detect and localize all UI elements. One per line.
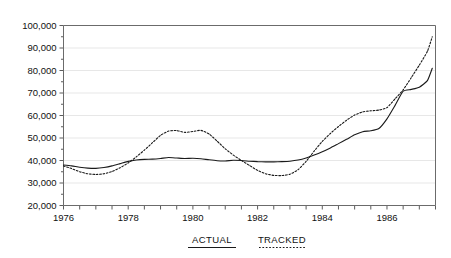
y-axis-tick-label: 50,000	[27, 132, 56, 143]
x-axis-tick-label: 1986	[376, 212, 397, 223]
x-axis-tick-label: 1978	[118, 212, 139, 223]
y-axis-tick-label: 80,000	[27, 65, 56, 76]
chart-container: 20,00030,00040,00050,00060,00070,00080,0…	[0, 0, 451, 258]
x-axis-tick-labels: 197619781980198219841986	[53, 212, 398, 223]
series-line-tracked	[64, 37, 433, 176]
legend-label-tracked: TRACKED	[258, 234, 306, 245]
y-axis-tick-label: 60,000	[27, 110, 56, 121]
chart-legend: ACTUAL TRACKED	[188, 234, 306, 248]
y-axis-tick-label: 90,000	[27, 42, 56, 53]
x-axis-tick-label: 1984	[312, 212, 333, 223]
x-tick-marks-group	[64, 206, 436, 210]
y-axis-tick-label: 70,000	[27, 87, 56, 98]
line-chart: 20,00030,00040,00050,00060,00070,00080,0…	[0, 0, 451, 258]
x-axis-tick-label: 1980	[182, 212, 203, 223]
y-tick-marks-group	[60, 26, 64, 206]
legend-label-actual: ACTUAL	[192, 234, 232, 245]
y-axis-tick-label: 40,000	[27, 155, 56, 166]
gridlines-group	[64, 26, 436, 184]
y-axis-tick-label: 100,000	[22, 20, 56, 31]
y-axis-tick-label: 30,000	[27, 177, 56, 188]
x-axis-tick-label: 1982	[247, 212, 268, 223]
y-axis-tick-labels: 20,00030,00040,00050,00060,00070,00080,0…	[22, 20, 56, 211]
x-axis-tick-label: 1976	[53, 212, 74, 223]
series-line-actual	[64, 68, 433, 168]
y-axis-tick-label: 20,000	[27, 200, 56, 211]
